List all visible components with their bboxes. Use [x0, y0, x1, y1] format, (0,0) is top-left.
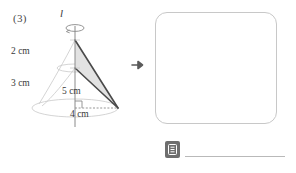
- answer-box[interactable]: [155, 12, 277, 124]
- figure-drawing: [0, 0, 150, 140]
- dimension-label-base: 4 cm: [70, 109, 89, 119]
- dimension-label-slant-side: 5 cm: [62, 86, 81, 96]
- answer-input-line[interactable]: [185, 156, 285, 157]
- answer-row: [165, 141, 287, 163]
- right-arrow-icon: [130, 57, 146, 73]
- triangle-edges: [75, 40, 118, 108]
- note-icon[interactable]: [165, 141, 180, 158]
- rotation-figure: l 2 cm 3 cm 5 cm 4 cm: [0, 0, 150, 140]
- dimension-label-upper-segment: 2 cm: [11, 46, 30, 56]
- dimension-label-lower-segment: 3 cm: [11, 78, 30, 88]
- axis-label: l: [60, 7, 63, 19]
- right-angle-marker: [75, 101, 82, 108]
- worksheet-problem: (3): [0, 0, 296, 173]
